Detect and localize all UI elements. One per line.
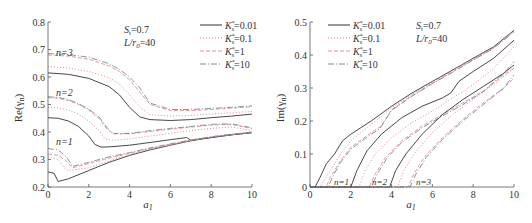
left-chart-curves	[48, 54, 252, 182]
legend-label-2: K*s=1	[224, 46, 245, 58]
legend-label-3: K*s=10	[352, 59, 378, 71]
left-mode-label-n2: n=2	[56, 87, 73, 98]
left-legend: K*s=0.01 K*s=0.1 K*s=1 K*s=10	[200, 20, 257, 71]
legend-label-0: K*s=0.01	[352, 20, 385, 32]
curve	[48, 97, 252, 134]
y-tick-label: 0.4	[33, 127, 46, 138]
right-ticks: 00.10.20.30.40.50246810	[295, 17, 520, 201]
x-tick-label: 0	[46, 189, 51, 200]
right-chart-curves	[310, 30, 514, 187]
curve	[310, 40, 514, 187]
legend-label-0: K*s=0.01	[224, 20, 257, 32]
right-mode-label-n1: n=1	[334, 177, 349, 187]
x-tick-label: 8	[471, 189, 476, 200]
x-tick-label: 10	[247, 189, 257, 200]
right-mode-label-n2: n=2	[372, 177, 388, 187]
y-tick-label: 0.6	[33, 72, 46, 83]
left-chart: 0.20.30.40.50.60.70.80246810 Re(γn) a1 S…	[12, 17, 257, 213]
curve	[310, 32, 514, 187]
y-tick-label: 0.2	[295, 116, 308, 127]
right-chart: 00.10.20.30.40.50246810 Im(γn) a1 St=0.7…	[274, 17, 519, 213]
left-param-st: St=0.7	[124, 24, 149, 37]
x-tick-label: 2	[348, 189, 353, 200]
left-y-label: Re(γn)	[12, 93, 26, 122]
left-param-l: L/r0=40	[123, 37, 155, 50]
curve	[310, 30, 514, 187]
curve	[310, 65, 514, 187]
legend-label-2: K*s=1	[352, 46, 373, 58]
curve	[48, 133, 252, 182]
right-mode-label-n3: n=3	[416, 177, 432, 187]
y-tick-label: 0.3	[33, 154, 46, 165]
left-mode-label-n3: n=3	[56, 47, 73, 58]
y-tick-label: 0.4	[295, 50, 308, 61]
right-param-l: L/r0=40	[415, 33, 447, 46]
x-tick-label: 4	[127, 189, 132, 200]
x-tick-label: 10	[509, 189, 519, 200]
curve	[48, 132, 252, 166]
curve	[310, 47, 514, 187]
figure: 0.20.30.40.50.60.70.80246810 Re(γn) a1 S…	[0, 0, 532, 223]
left-mode-label-n1: n=1	[56, 136, 73, 147]
y-tick-label: 0.7	[33, 44, 46, 55]
y-tick-label: 0.2	[33, 182, 46, 193]
x-tick-label: 6	[168, 189, 173, 200]
right-y-label: Im(γn)	[274, 93, 288, 122]
right-x-label: a1	[406, 198, 416, 212]
y-tick-label: 0.1	[295, 149, 308, 160]
right-param-st: St=0.7	[416, 20, 441, 33]
legend-label-1: K*s=0.1	[224, 33, 252, 45]
legend-label-1: K*s=0.1	[352, 33, 380, 45]
right-legend: K*s=0.01 K*s=0.1 K*s=1 K*s=10	[328, 20, 385, 71]
y-tick-label: 0	[302, 182, 307, 193]
curve	[310, 78, 514, 187]
y-tick-label: 0.8	[33, 17, 46, 28]
curve	[48, 98, 252, 134]
x-tick-label: 2	[86, 189, 91, 200]
left-x-label: a1	[143, 198, 153, 212]
curve	[310, 31, 514, 187]
y-tick-label: 0.3	[295, 83, 308, 94]
x-tick-label: 8	[209, 189, 214, 200]
curve	[48, 55, 252, 111]
legend-label-3: K*s=10	[224, 59, 250, 71]
x-tick-label: 6	[430, 189, 435, 200]
x-tick-label: 0	[308, 189, 313, 200]
y-tick-label: 0.5	[33, 99, 46, 110]
curve	[48, 67, 252, 117]
curve	[48, 54, 252, 110]
y-tick-label: 0.5	[295, 17, 308, 28]
x-tick-label: 4	[389, 189, 394, 200]
curve	[48, 118, 252, 147]
curve	[310, 31, 514, 187]
curve	[310, 62, 514, 187]
